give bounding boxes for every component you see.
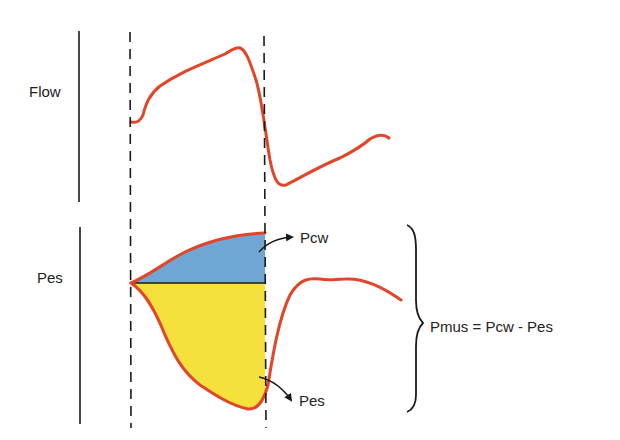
flow-label: Flow [29,83,61,100]
pes-axis-label: Pes [37,269,63,286]
diagram-canvas: Flow Pes Pcw Pes Pmus = Pcw - Pes [0,0,620,440]
pes-arrow-label: Pes [299,392,325,409]
grouping-brace [407,225,423,412]
pcw-region [131,233,265,283]
inspiration-start-marker [130,32,131,428]
pmus-equation: Pmus = Pcw - Pes [430,318,553,335]
pcw-arrow-label: Pcw [300,229,329,246]
flow-trace [131,48,389,186]
pes-region [131,283,265,409]
